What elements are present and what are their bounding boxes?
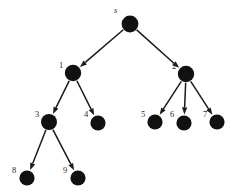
- tree-node-label-6: 6: [170, 110, 174, 119]
- tree-node-label-4: 4: [84, 110, 88, 119]
- tree-edge-s-to-1: [80, 30, 123, 67]
- tree-node-label-9: 9: [63, 166, 67, 175]
- edge-line: [185, 83, 186, 108]
- tree-node-3[interactable]: [41, 114, 57, 130]
- tree-node-4[interactable]: [90, 115, 105, 130]
- arrowhead-icon: [160, 107, 166, 114]
- tree-node-label-s: s: [114, 6, 117, 15]
- tree-node-label-2: 2: [172, 62, 176, 71]
- edge-line: [33, 130, 46, 164]
- edge-line: [56, 81, 69, 108]
- tree-graph-canvas: [0, 0, 231, 195]
- tree-edge-3-to-8: [30, 130, 46, 170]
- tree-node-label-8: 8: [12, 166, 16, 175]
- arrowhead-icon: [30, 163, 35, 170]
- tree-node-label-1: 1: [59, 61, 63, 70]
- tree-edge-1-to-3: [53, 81, 69, 114]
- tree-edge-2-to-7: [191, 81, 213, 114]
- tree-node-label-7: 7: [203, 110, 207, 119]
- edge-line: [85, 30, 123, 63]
- tree-diagram: s123456789: [0, 0, 231, 195]
- tree-node-9[interactable]: [70, 170, 85, 185]
- arrowhead-icon: [89, 108, 94, 115]
- tree-node-2[interactable]: [178, 66, 194, 82]
- tree-node-s[interactable]: [122, 16, 139, 33]
- tree-node-label-5: 5: [141, 110, 145, 119]
- arrowhead-icon: [182, 107, 187, 114]
- node-layer: [19, 16, 224, 186]
- tree-node-1[interactable]: [65, 65, 81, 81]
- tree-node-5[interactable]: [147, 114, 162, 129]
- edge-line: [53, 130, 71, 165]
- edge-layer: [30, 30, 212, 171]
- edge-line: [191, 81, 209, 109]
- arrowhead-icon: [69, 163, 75, 170]
- edge-line: [137, 30, 174, 63]
- tree-node-6[interactable]: [176, 115, 191, 130]
- tree-node-8[interactable]: [19, 170, 34, 185]
- tree-edge-2-to-6: [182, 83, 187, 115]
- tree-node-7[interactable]: [209, 114, 224, 129]
- arrowhead-icon: [53, 106, 58, 113]
- edge-line: [163, 81, 181, 109]
- edge-line: [77, 81, 91, 109]
- tree-node-label-3: 3: [35, 110, 39, 119]
